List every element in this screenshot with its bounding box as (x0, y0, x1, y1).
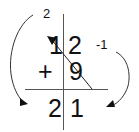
left-curved-arrow (10, 15, 33, 101)
row1-tens-digit: 1 (49, 31, 63, 59)
left-annotation-label: 2 (43, 6, 50, 21)
addition-diagram: 1 2 + 9 2 1 2 -1 (0, 0, 139, 132)
result-ones-digit: 1 (70, 94, 84, 122)
operator-plus: + (38, 57, 53, 85)
result-tens-digit: 2 (48, 94, 62, 122)
left-arrowhead-icon (20, 98, 28, 106)
right-curved-arrow (113, 52, 129, 105)
row2-ones-digit: 9 (69, 57, 83, 85)
right-arrowhead-icon (106, 100, 115, 107)
row1-ones-digit: 2 (68, 31, 82, 59)
right-annotation-label: -1 (96, 37, 108, 52)
